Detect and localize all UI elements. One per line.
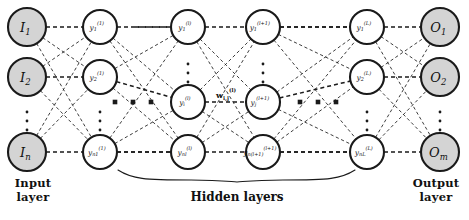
vertical-ellipsis-dot (439, 129, 442, 132)
edge-input-2-to-hidden-1-0 (37, 42, 92, 136)
node-input-2[interactable]: In (8, 133, 46, 171)
horizontal-ellipsis-dot (298, 100, 303, 105)
edge-input-1-to-hidden-1-2 (40, 91, 88, 140)
node-label-superscript: (L) (364, 20, 371, 26)
node-label-base: O (429, 145, 440, 160)
node-output-0[interactable]: O1 (421, 8, 459, 46)
node-circle (171, 135, 205, 169)
output-layer-caption-line1: Output (403, 176, 469, 190)
weight-label-subscript: i,j (223, 95, 229, 102)
vertical-ellipsis-dot (439, 120, 442, 123)
node-label-subscript: nl (182, 151, 187, 157)
node-circle (350, 10, 384, 44)
node-label-subscript: n(l+1) (247, 151, 263, 157)
node-hidden-l-2[interactable]: ynl(l) (171, 135, 205, 169)
neural-network-diagram: wi,j(l)I1I2Iny1(1)y2(1)yn1(1)y1(l)yi(l)y… (0, 0, 469, 220)
edge-input-0-to-hidden-1-1 (43, 38, 86, 68)
node-label-superscript: (l+1) (257, 20, 270, 26)
edge-hidden-L-2-to-output-0 (376, 43, 431, 137)
node-circle (83, 60, 117, 94)
vertical-ellipsis-dot (99, 129, 102, 132)
node-label-subscript: 2 (93, 76, 97, 82)
vertical-ellipsis-dot (26, 129, 29, 132)
vertical-ellipsis-dot (99, 120, 102, 123)
node-label-superscript: (l) (187, 145, 193, 151)
node-hidden-1-1[interactable]: y2(1) (83, 60, 117, 94)
vertical-ellipsis-dot (26, 111, 29, 114)
hidden-layers-caption: Hidden layers (157, 190, 317, 204)
node-hidden-l-plus-1-1[interactable]: yj(l+1) (246, 85, 280, 119)
node-label-subscript: 2 (360, 76, 364, 82)
node-label-superscript: (1) (99, 145, 106, 151)
node-input-0[interactable]: I1 (8, 8, 46, 46)
node-label-superscript: (l) (185, 95, 191, 101)
node-label-subscript: 1 (25, 26, 30, 36)
edge-input-1-to-hidden-1-0 (43, 37, 86, 67)
node-hidden-L-2[interactable]: ynL(L) (350, 135, 384, 169)
node-hidden-l-plus-1-2[interactable]: yn(l+1)(l+1) (242, 135, 280, 169)
node-hidden-l-1[interactable]: yi(l) (171, 85, 205, 119)
edge-hidden-1-1-to-hidden-l-0 (115, 35, 173, 68)
node-circle (350, 60, 384, 94)
vertical-ellipsis-dot (26, 120, 29, 123)
input-layer-caption: Input layer (0, 176, 66, 204)
node-hidden-1-0[interactable]: y1(1) (83, 10, 117, 44)
node-label-subscript: 1 (94, 26, 97, 32)
node-label-subscript: m (440, 151, 448, 161)
vertical-ellipsis-dot (262, 63, 265, 66)
node-label-subscript: 2 (24, 76, 30, 86)
node-label-base: O (430, 20, 441, 35)
input-layer-caption-line1: Input (0, 176, 66, 190)
node-label-subscript: 1 (361, 26, 364, 32)
node-hidden-l-plus-1-0[interactable]: y1(l+1) (246, 10, 280, 44)
weight-label: wi,j(l) (215, 87, 237, 102)
edge-hidden-L-1-to-output-0 (381, 38, 424, 68)
node-label-subscript: 1 (441, 26, 446, 36)
edge-input-2-to-hidden-1-1 (40, 89, 88, 138)
node-label-base: O (430, 70, 441, 85)
output-layer-caption-line2: layer (403, 190, 469, 204)
node-label-subscript: j (254, 101, 257, 108)
node-hidden-1-2[interactable]: yn1(1) (83, 135, 117, 169)
vertical-ellipsis-dot (262, 72, 265, 75)
network-svg: wi,j(l)I1I2Iny1(1)y2(1)yn1(1)y1(l)yi(l)y… (0, 0, 469, 220)
node-input-1[interactable]: I2 (8, 58, 46, 96)
node-label-subscript: 2 (440, 76, 446, 86)
horizontal-ellipsis-dot (113, 100, 118, 105)
input-layer-caption-line2: layer (0, 190, 66, 204)
vertical-ellipsis-dot (366, 111, 369, 114)
node-hidden-l-0[interactable]: y1(l) (171, 10, 205, 44)
node-label-superscript: (L) (364, 70, 371, 76)
edge-hidden-L-0-to-output-2 (376, 42, 431, 136)
output-layer-caption: Output layer (403, 176, 469, 204)
vertical-ellipsis-dot (187, 63, 190, 66)
node-circle (83, 10, 117, 44)
vertical-ellipsis-dot (366, 120, 369, 123)
node-hidden-L-1[interactable]: y2(L) (350, 60, 384, 94)
edge-input-0-to-hidden-1-2 (37, 43, 92, 137)
node-hidden-L-0[interactable]: y1(L) (350, 10, 384, 44)
vertical-ellipsis-dot (366, 129, 369, 132)
horizontal-ellipsis-dot (131, 100, 136, 105)
node-label-superscript: (1) (97, 20, 104, 26)
node-label-superscript: (L) (366, 145, 373, 151)
node-label-subscript: 1 (254, 26, 257, 32)
vertical-ellipsis-dot (439, 111, 442, 114)
edge-hidden-l-1-to-hidden-l-plus-1-0 (200, 39, 251, 90)
node-label-superscript: (l) (186, 20, 192, 26)
node-label-superscript: (1) (97, 70, 104, 76)
horizontal-ellipsis-dot (149, 100, 154, 105)
node-label-subscript: nL (359, 151, 366, 157)
horizontal-ellipsis-dot (334, 100, 339, 105)
node-label-superscript: (l+1) (256, 95, 269, 101)
node-output-2[interactable]: Om (421, 133, 459, 171)
vertical-ellipsis-dot (187, 72, 190, 75)
edge-hidden-L-1-to-output-2 (379, 89, 427, 138)
node-label-subscript: n (25, 151, 30, 161)
node-output-1[interactable]: O2 (421, 58, 459, 96)
weight-label-superscript: (l) (229, 87, 237, 93)
node-circle (171, 85, 205, 119)
node-circle (171, 10, 205, 44)
horizontal-ellipsis-dot (316, 100, 321, 105)
vertical-ellipsis-dot (99, 111, 102, 114)
